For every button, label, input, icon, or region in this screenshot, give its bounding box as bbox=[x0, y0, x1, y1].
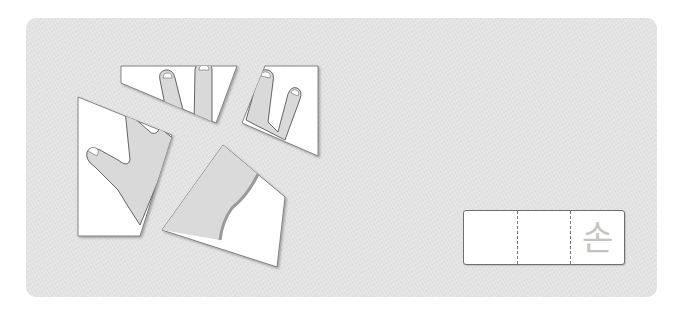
answer-cell-2[interactable] bbox=[517, 211, 571, 264]
answer-cell-1[interactable] bbox=[464, 211, 517, 264]
puzzle-piece-wrist[interactable] bbox=[162, 145, 285, 267]
answer-cell-3[interactable]: 손 bbox=[570, 211, 624, 264]
puzzle-piece-fingers-2[interactable] bbox=[242, 66, 318, 156]
word-answer-box: 손 bbox=[463, 210, 625, 265]
answer-cell-3-text: 손 bbox=[582, 221, 613, 255]
puzzle-piece-fingers-1[interactable] bbox=[121, 62, 237, 125]
puzzle-piece-thumb-palm[interactable] bbox=[78, 97, 175, 236]
